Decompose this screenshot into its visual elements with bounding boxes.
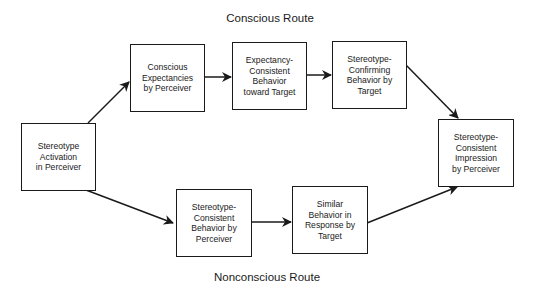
arrow-activation-to-consistent-behavior (86, 190, 173, 223)
arrow-activation-to-expectancies (88, 82, 129, 123)
node-stereotype-activation: Stereotype Activation in Perceiver (21, 123, 96, 191)
node-label: Similar Behavior in Response by Target (305, 199, 355, 241)
node-stereotype-confirming-behavior: Stereotype- Confirming Behavior by Targe… (332, 41, 407, 109)
node-expectancy-consistent-behavior: Expectancy- Consistent Behavior toward T… (232, 42, 307, 110)
node-label: Stereotype- Confirming Behavior by Targe… (347, 54, 392, 96)
node-label: Stereotype- Consistent Impression by Per… (452, 132, 500, 174)
node-label: Stereotype Activation in Perceiver (36, 141, 81, 173)
arrow-confirming-to-impression (406, 65, 458, 118)
node-label: Conscious Expectancies by Perceiver (142, 62, 193, 94)
node-similar-behavior-response: Similar Behavior in Response by Target (292, 186, 368, 254)
node-label: Expectancy- Consistent Behavior toward T… (244, 55, 296, 97)
node-label: Stereotype- Consistent Behavior by Perce… (191, 202, 236, 244)
arrow-similar-to-impression (367, 187, 457, 223)
node-conscious-expectancies: Conscious Expectancies by Perceiver (130, 44, 205, 112)
node-stereotype-consistent-behavior: Stereotype- Consistent Behavior by Perce… (176, 189, 252, 257)
node-stereotype-consistent-impression: Stereotype- Consistent Impression by Per… (438, 119, 514, 187)
